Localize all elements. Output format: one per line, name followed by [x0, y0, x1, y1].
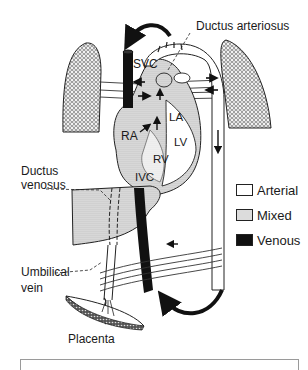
legend-label: Mixed: [257, 208, 292, 223]
label-lv: LV: [174, 136, 187, 149]
arterial-swatch-icon: [236, 184, 253, 196]
label-ductus-venosus-1: Ductus: [21, 165, 58, 178]
venous-swatch-icon: [236, 234, 253, 246]
superior-vena-cava: [123, 52, 133, 108]
label-rv: RV: [153, 153, 169, 166]
legend-label: Arterial: [257, 183, 298, 198]
legend-item-mixed: Mixed: [236, 205, 300, 225]
label-placenta: Placenta: [68, 333, 115, 346]
right-lung: [221, 40, 271, 128]
label-svc: SVC: [133, 58, 158, 71]
legend-item-venous: Venous: [236, 230, 300, 250]
label-ra: RA: [121, 130, 138, 143]
caption-box-border: [20, 359, 299, 370]
left-lung: [63, 43, 101, 132]
legend-item-arterial: Arterial: [236, 180, 300, 200]
mixed-swatch-icon: [236, 209, 253, 221]
umbilical-arteries: [100, 248, 222, 291]
label-umbilical-vein-2: vein: [21, 282, 43, 295]
label-la: LA: [169, 111, 183, 124]
label-ductus-arteriosus: Ductus arteriosus: [196, 20, 289, 33]
label-ductus-venosus-2: venosus: [21, 179, 66, 192]
legend-label: Venous: [257, 233, 300, 248]
legend: Arterial Mixed Venous: [236, 180, 300, 255]
label-umbilical-vein-1: Umbilical: [21, 266, 70, 279]
umbilical-vein: [104, 245, 116, 300]
label-ivc: IVC: [135, 171, 154, 184]
